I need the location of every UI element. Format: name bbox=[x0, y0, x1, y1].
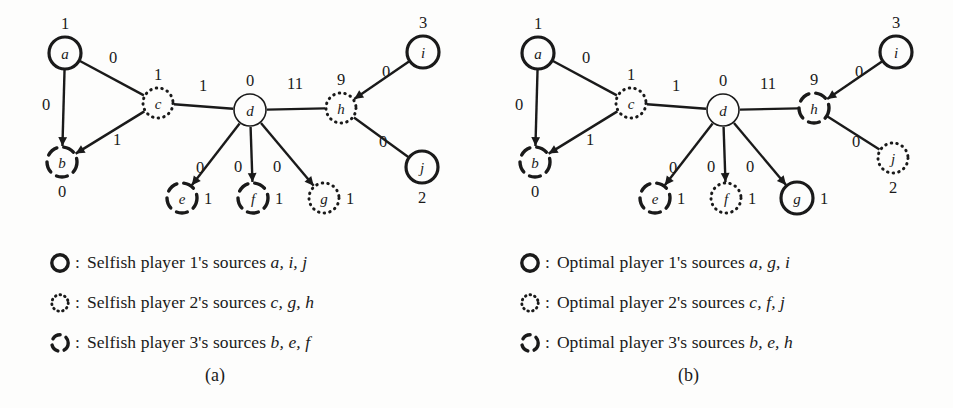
edge-c-d bbox=[174, 104, 233, 108]
edge-d-h bbox=[267, 108, 325, 109]
node-weight-j: 2 bbox=[418, 188, 426, 207]
legend-description: Optimal player 2's sources c, f, j bbox=[557, 294, 785, 312]
edge-d-g bbox=[261, 123, 314, 186]
node-label-d: d bbox=[246, 103, 254, 119]
node-weight-i: 3 bbox=[419, 13, 427, 32]
legend-marker-dotted-icon bbox=[518, 291, 542, 315]
node-weight-a: 1 bbox=[534, 14, 542, 33]
arrowhead-d-f bbox=[721, 173, 730, 182]
node-label-a: a bbox=[61, 46, 69, 62]
caption-a: (a) bbox=[205, 365, 225, 386]
node-weight-h: 9 bbox=[810, 70, 818, 89]
edge-cost-c-d: 1 bbox=[199, 76, 207, 95]
arrowhead-a-b bbox=[58, 137, 67, 146]
legend-marker-solid-bold-icon bbox=[48, 251, 72, 275]
edge-a-b bbox=[62, 70, 64, 146]
legend-description-text: Selfish player 1's sources bbox=[87, 252, 271, 272]
node-label-d: d bbox=[719, 103, 727, 119]
edge-cost-i-h: 0 bbox=[855, 62, 863, 81]
node-label-b: b bbox=[58, 155, 66, 171]
edge-cost-d-e: 0 bbox=[196, 158, 204, 177]
node-weight-h: 9 bbox=[337, 70, 345, 89]
graph-panel-b: 00110001100a1b0c1d0e1f1g1h9i3j2 bbox=[515, 13, 912, 214]
legend-panel-a: :Selfish player 1's sources a, i, j:Self… bbox=[48, 243, 314, 363]
edge-cost-a-b: 0 bbox=[515, 95, 523, 114]
edge-cost-a-c: 0 bbox=[109, 48, 117, 67]
node-weight-e: 1 bbox=[677, 189, 685, 208]
caption-b: (b) bbox=[678, 365, 699, 386]
legend-panel-b: :Optimal player 1's sources a, g, i:Opti… bbox=[518, 243, 793, 363]
node-weight-e: 1 bbox=[204, 189, 212, 208]
node-weight-c: 1 bbox=[627, 65, 635, 84]
edge-cost-d-e: 0 bbox=[669, 158, 677, 177]
legend-marker-dashed-icon bbox=[518, 331, 542, 355]
legend-description: Selfish player 3's sources b, e, f bbox=[87, 334, 310, 352]
node-label-i: i bbox=[894, 45, 898, 61]
legend-source-list: c, g, h bbox=[271, 292, 314, 312]
legend-source-list: a, g, i bbox=[749, 252, 790, 272]
legend-source-list: b, e, h bbox=[749, 332, 792, 352]
node-label-e: e bbox=[652, 191, 659, 207]
node-weight-i: 3 bbox=[892, 13, 900, 32]
node-label-b: b bbox=[531, 155, 539, 171]
legend-source-list: b, e, f bbox=[271, 332, 311, 352]
legend-description-text: Selfish player 2's sources bbox=[87, 292, 271, 312]
node-weight-a: 1 bbox=[61, 14, 69, 33]
node-weight-d: 0 bbox=[719, 71, 727, 90]
node-weight-b: 0 bbox=[58, 182, 66, 201]
legend-row-b-1: :Optimal player 1's sources a, g, i bbox=[518, 243, 793, 283]
legend-colon: : bbox=[75, 334, 80, 352]
edge-cost-d-g: 0 bbox=[273, 157, 281, 176]
legend-description: Optimal player 1's sources a, g, i bbox=[557, 254, 790, 272]
legend-row-b-2: :Optimal player 2's sources c, f, j bbox=[518, 283, 793, 323]
node-label-g: g bbox=[320, 191, 328, 207]
node-label-g: g bbox=[793, 191, 801, 207]
node-label-i: i bbox=[421, 45, 425, 61]
legend-description: Optimal player 3's sources b, e, h bbox=[557, 334, 793, 352]
legend-source-list: a, i, j bbox=[271, 252, 308, 272]
edge-cost-a-b: 0 bbox=[42, 95, 50, 114]
legend-description-text: Optimal player 2's sources bbox=[557, 292, 749, 312]
node-weight-g: 1 bbox=[820, 189, 828, 208]
edge-cost-d-g: 0 bbox=[746, 157, 754, 176]
legend-colon: : bbox=[75, 254, 80, 272]
legend-colon: : bbox=[75, 294, 80, 312]
edge-a-b bbox=[535, 70, 537, 146]
graph-panel-a: 00110001100a1b0c1d0e1f1g1h9i3j2 bbox=[42, 13, 439, 213]
edge-d-g bbox=[734, 123, 786, 185]
edge-c-b bbox=[76, 111, 145, 153]
node-weight-g: 1 bbox=[346, 189, 354, 208]
node-weight-d: 0 bbox=[246, 71, 254, 90]
edge-d-h bbox=[740, 108, 798, 109]
edge-cost-d-f: 0 bbox=[234, 157, 242, 176]
node-label-h: h bbox=[337, 101, 345, 117]
edge-cost-h-j: 0 bbox=[852, 132, 860, 151]
legend-description: Selfish player 1's sources a, i, j bbox=[87, 254, 307, 272]
node-label-a: a bbox=[534, 46, 542, 62]
edge-cost-c-d: 1 bbox=[672, 76, 680, 95]
legend-row-a-2: :Selfish player 2's sources c, g, h bbox=[48, 283, 314, 323]
node-weight-c: 1 bbox=[154, 65, 162, 84]
legend-marker-dashed-icon bbox=[48, 331, 72, 355]
edge-cost-d-h: 11 bbox=[760, 74, 776, 93]
legend-row-a-3: :Selfish player 3's sources b, e, f bbox=[48, 323, 314, 363]
legend-row-b-3: :Optimal player 3's sources b, e, h bbox=[518, 323, 793, 363]
node-label-e: e bbox=[179, 191, 186, 207]
legend-source-list: c, f, j bbox=[749, 292, 785, 312]
legend-colon: : bbox=[545, 294, 550, 312]
edge-c-b bbox=[549, 111, 618, 153]
legend-marker-dotted-icon bbox=[48, 291, 72, 315]
edge-cost-c-b: 1 bbox=[586, 130, 594, 149]
edge-cost-j-h: 0 bbox=[379, 132, 387, 151]
arrowhead-a-b bbox=[531, 137, 540, 146]
legend-row-a-1: :Selfish player 1's sources a, i, j bbox=[48, 243, 314, 283]
node-label-c: c bbox=[628, 96, 635, 112]
legend-colon: : bbox=[545, 254, 550, 272]
edge-cost-d-f: 0 bbox=[707, 157, 715, 176]
legend-marker-solid-bold-icon bbox=[518, 251, 542, 275]
legend-description-text: Optimal player 1's sources bbox=[557, 252, 749, 272]
edge-cost-a-c: 0 bbox=[582, 48, 590, 67]
edge-cost-i-h: 0 bbox=[382, 62, 390, 81]
figure-root: 00110001100a1b0c1d0e1f1g1h9i3j2001100011… bbox=[0, 0, 953, 408]
edge-cost-c-b: 1 bbox=[113, 130, 121, 149]
